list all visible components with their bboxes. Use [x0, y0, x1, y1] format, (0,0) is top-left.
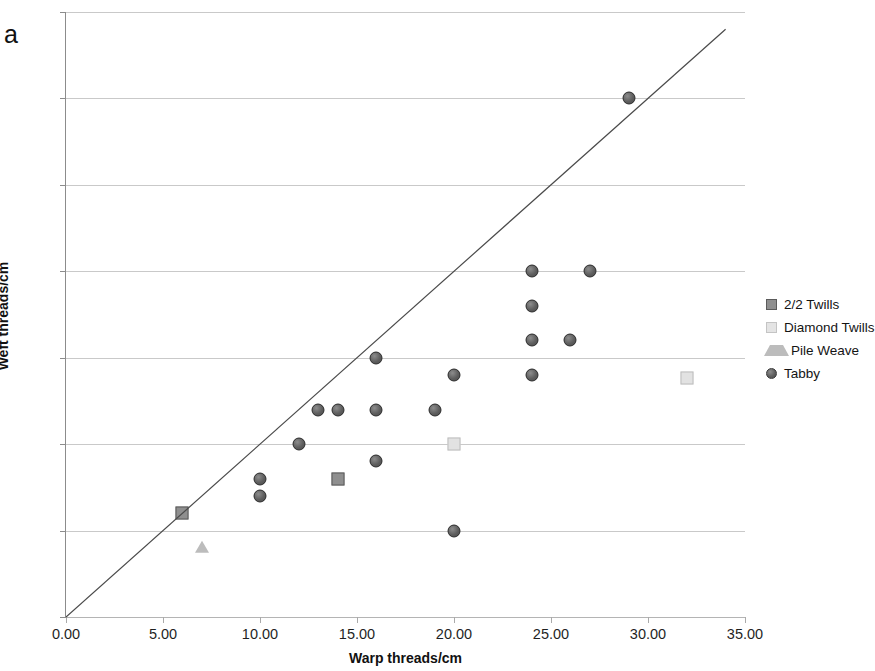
gridline-y: [66, 98, 745, 99]
data-point: [370, 455, 383, 468]
data-point: [583, 265, 596, 278]
x-tick-label: 0.00: [52, 626, 80, 642]
x-tick-mark: [163, 617, 164, 623]
x-tick-label: 35.00: [727, 626, 763, 642]
y-tick-mark: [60, 444, 66, 445]
x-tick-mark: [454, 617, 455, 623]
gridline-y: [66, 271, 745, 272]
legend-label: Diamond Twills: [784, 320, 875, 335]
x-tick-mark: [551, 617, 552, 623]
x-axis-line: [65, 617, 746, 618]
x-axis-tick-labels: 0.005.0010.0015.0020.0025.0030.0035.00: [66, 626, 745, 646]
legend-swatch-icon: [764, 345, 789, 356]
data-point: [292, 438, 305, 451]
data-point: [254, 472, 267, 485]
data-point: [195, 541, 209, 553]
x-tick-label: 15.00: [339, 626, 375, 642]
legend-item: 2/2 Twills: [764, 293, 872, 315]
legend: 2/2 TwillsDiamond TwillsPile WeaveTabby: [764, 293, 872, 385]
data-point: [525, 299, 538, 312]
gridline-y: [66, 358, 745, 359]
data-point: [564, 334, 577, 347]
y-tick-mark: [60, 12, 66, 13]
x-tick-mark: [357, 617, 358, 623]
data-point: [312, 403, 325, 416]
x-tick-label: 20.00: [436, 626, 472, 642]
x-tick-mark: [260, 617, 261, 623]
data-point: [331, 472, 344, 485]
data-point: [331, 403, 344, 416]
y-tick-mark: [60, 531, 66, 532]
gridline-y: [66, 444, 745, 445]
data-point: [448, 524, 461, 537]
legend-label: Pile Weave: [791, 343, 859, 358]
panel-letter: a: [4, 20, 18, 49]
data-point: [448, 438, 461, 451]
y-tick-mark: [60, 358, 66, 359]
data-point: [525, 369, 538, 382]
data-point: [525, 334, 538, 347]
legend-label: Tabby: [784, 366, 820, 381]
legend-swatch-icon: [766, 368, 777, 379]
gridline-y: [66, 12, 745, 13]
data-point: [622, 92, 635, 105]
gridline-y: [66, 185, 745, 186]
x-tick-mark: [66, 617, 67, 623]
data-point: [370, 403, 383, 416]
y-tick-mark: [60, 98, 66, 99]
x-tick-mark: [648, 617, 649, 623]
legend-item: Pile Weave: [764, 339, 872, 361]
x-axis-title: Warp threads/cm: [66, 650, 745, 666]
x-tick-label: 5.00: [149, 626, 177, 642]
plot-area: [66, 12, 745, 617]
legend-swatch-icon: [766, 299, 777, 310]
legend-label: 2/2 Twills: [784, 297, 839, 312]
data-point: [254, 490, 267, 503]
y-axis-line: [65, 12, 66, 618]
x-tick-label: 25.00: [533, 626, 569, 642]
x-tick-label: 10.00: [242, 626, 278, 642]
data-point: [525, 265, 538, 278]
x-tick-label: 30.00: [630, 626, 666, 642]
data-point: [448, 369, 461, 382]
data-point: [176, 507, 189, 520]
legend-swatch-icon: [766, 322, 777, 333]
data-point: [428, 403, 441, 416]
data-point: [370, 351, 383, 364]
data-point: [680, 372, 693, 385]
legend-item: Diamond Twills: [764, 316, 872, 338]
x-tick-mark: [745, 617, 746, 623]
legend-item: Tabby: [764, 362, 872, 384]
gridline-y: [66, 531, 745, 532]
y-tick-mark: [60, 185, 66, 186]
y-tick-mark: [60, 271, 66, 272]
